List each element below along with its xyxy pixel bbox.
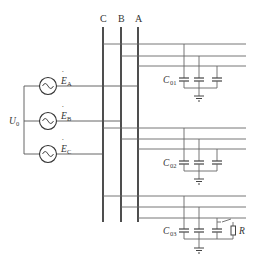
capacitor-c02-icon (179, 161, 222, 164)
bus-label-b: B (118, 13, 125, 24)
source-labels: E A · E B · E C · U 0 (9, 67, 72, 155)
capacitor-c03-icon (179, 229, 222, 232)
svg-text:E: E (60, 111, 67, 121)
bus-label-a: A (135, 13, 143, 24)
svg-text:B: B (67, 115, 72, 122)
svg-text:·: · (62, 102, 65, 111)
svg-text:A: A (67, 80, 72, 87)
ground-1-icon (194, 96, 204, 101)
feeder-1 (103, 44, 246, 101)
bus-label-c: C (100, 13, 107, 24)
cap-label-c03: C (163, 226, 170, 236)
cap-label-c02: C (163, 158, 170, 168)
svg-text:0: 0 (16, 120, 19, 127)
ground-3-icon (194, 248, 204, 253)
feeder-2 (103, 128, 246, 184)
svg-text:C: C (67, 148, 71, 155)
circuit-diagram: C B A E A · E B · E C · U (0, 0, 254, 266)
feeder-3 (103, 196, 246, 253)
svg-text:E: E (60, 76, 67, 86)
svg-text:·: · (62, 67, 65, 76)
svg-text:03: 03 (170, 230, 177, 237)
ground-2-icon (194, 179, 204, 184)
svg-text:02: 02 (170, 162, 177, 169)
svg-text:01: 01 (170, 79, 177, 86)
capacitor-c01-icon (179, 78, 222, 81)
cap-label-c01: C (163, 75, 170, 85)
svg-text:E: E (60, 144, 67, 154)
fault-resistor-icon (231, 226, 236, 235)
fault-resistor-label: R (238, 226, 245, 236)
svg-text:·: · (62, 135, 65, 144)
